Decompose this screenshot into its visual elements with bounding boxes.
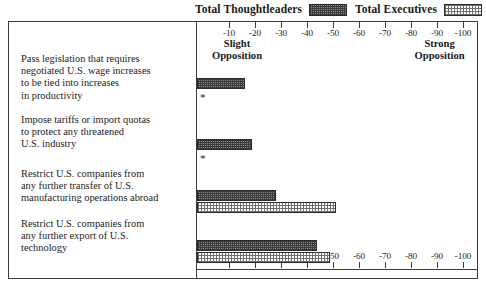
category-label-line: negotiated U.S. wage increases xyxy=(21,65,193,77)
category-label-column: Pass legislation that requiresnegotiated… xyxy=(9,22,196,278)
axis-tick-label: -30 xyxy=(275,28,287,38)
axis-tick-label: -100 xyxy=(455,28,472,38)
axis-tick-label: -90 xyxy=(431,28,443,38)
axis-tick-label: -40 xyxy=(301,28,313,38)
legend-item-executives: Total Executives xyxy=(355,0,482,19)
anchor-label-slight-opposition: SlightOpposition xyxy=(212,38,262,61)
top-axis: -10-20-30-40-50-60-70-80-90-100SlightOpp… xyxy=(197,22,478,52)
bar-group: * xyxy=(197,139,478,165)
category-label-line: Restrict U.S. companies from xyxy=(21,218,193,230)
anchor-label-strong-opposition-line2: Opposition xyxy=(415,50,465,62)
bar-thoughtleaders xyxy=(197,240,317,251)
category-label-line: U.S. industry xyxy=(21,138,193,150)
category-label-line: any further export of U.S. xyxy=(21,230,193,242)
category-label-line: to be tied into increases xyxy=(21,77,193,89)
axis-tick-label: -80 xyxy=(405,28,417,38)
category-label-line: to protect any threatened xyxy=(21,126,193,138)
axis-tick-label: -50 xyxy=(327,28,339,38)
legend-swatch-thoughtleaders-icon xyxy=(309,4,347,16)
bar-group: * xyxy=(197,78,478,104)
chart-frame: Pass legislation that requiresnegotiated… xyxy=(8,21,478,279)
axis-tick-label: -10 xyxy=(223,28,235,38)
legend-item-thoughtleaders: Total Thoughtleaders xyxy=(195,0,347,19)
bar-group xyxy=(197,240,478,266)
category-label-line: in productivity xyxy=(21,90,193,102)
bar-group xyxy=(197,190,478,216)
axis-tick-label: -60 xyxy=(353,28,365,38)
legend-swatch-executives-icon xyxy=(444,4,482,16)
suppressed-value-marker: * xyxy=(200,92,206,103)
category-label-line: manufacturing operations abroad xyxy=(21,192,193,204)
bar-thoughtleaders xyxy=(197,190,276,201)
axis-tick-label: -70 xyxy=(379,28,391,38)
anchor-label-strong-opposition: StrongOpposition xyxy=(415,38,465,61)
category-label: Restrict U.S. companies fromany further … xyxy=(21,218,193,255)
category-label-line: technology xyxy=(21,242,193,254)
category-label-line: Pass legislation that requires xyxy=(21,53,193,65)
chart-container: Total Thoughtleaders Total Executives Pa… xyxy=(0,0,486,285)
bar-executives xyxy=(197,252,330,263)
category-label: Restrict U.S. companies fromany further … xyxy=(21,168,193,205)
bar-thoughtleaders xyxy=(197,139,252,150)
anchor-label-strong-opposition-line1: Strong xyxy=(415,38,465,50)
anchor-label-slight-opposition-line2: Opposition xyxy=(212,50,262,62)
bar-thoughtleaders xyxy=(197,78,245,89)
legend-label-thoughtleaders: Total Thoughtleaders xyxy=(195,4,302,16)
chart-legend: Total Thoughtleaders Total Executives xyxy=(0,0,486,19)
legend-label-executives: Total Executives xyxy=(355,4,437,16)
category-label-line: any further transfer of U.S. xyxy=(21,180,193,192)
plot-area: -10-20-30-40-50-60-70-80-90-100SlightOpp… xyxy=(197,22,478,278)
bottom-axis-rule xyxy=(197,269,478,270)
category-label: Impose tariffs or import quotasto protec… xyxy=(21,114,193,151)
suppressed-value-marker: * xyxy=(200,153,206,164)
axis-tick-label: -20 xyxy=(249,28,261,38)
anchor-label-slight-opposition-line1: Slight xyxy=(212,38,262,50)
bar-executives xyxy=(197,202,336,213)
category-label-line: Impose tariffs or import quotas xyxy=(21,114,193,126)
category-label: Pass legislation that requiresnegotiated… xyxy=(21,53,193,102)
category-label-line: Restrict U.S. companies from xyxy=(21,168,193,180)
